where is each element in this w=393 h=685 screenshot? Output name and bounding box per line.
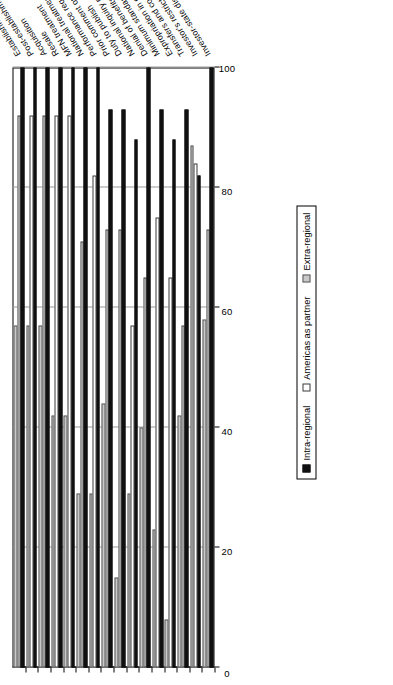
chart-canvas: 020406080100 EstablishmentPost-establish… bbox=[0, 0, 393, 685]
category-tick bbox=[63, 667, 64, 672]
bar-intra bbox=[121, 109, 125, 667]
bar-extra bbox=[63, 415, 67, 667]
bar-intra bbox=[197, 175, 201, 667]
bar-amer bbox=[42, 115, 46, 667]
axis-tick-label-text: 20 bbox=[221, 545, 232, 556]
bar-extra bbox=[152, 529, 156, 667]
bar-group bbox=[100, 67, 113, 667]
bar-amer bbox=[118, 229, 122, 667]
axis-tick bbox=[214, 546, 219, 547]
bar-group bbox=[138, 67, 151, 667]
axis-tick-label: 40 bbox=[221, 425, 232, 436]
legend-label: Intra-regional bbox=[301, 405, 311, 460]
axis-tick-label: 60 bbox=[221, 305, 232, 316]
bar-amer bbox=[92, 175, 96, 667]
category-tick bbox=[126, 667, 127, 672]
bar-extra bbox=[127, 493, 131, 667]
category-tick bbox=[164, 667, 165, 672]
category-tick bbox=[176, 667, 177, 672]
bar-group bbox=[25, 67, 38, 667]
axis-tick-label-text: 80 bbox=[221, 185, 232, 196]
bar-intra bbox=[108, 109, 112, 667]
bar-extra bbox=[101, 403, 105, 667]
bar-extra bbox=[177, 415, 181, 667]
bar-intra bbox=[172, 139, 176, 667]
bar-extra bbox=[164, 619, 168, 667]
bar-amer bbox=[80, 241, 84, 667]
bar-amer bbox=[181, 325, 185, 667]
bar-extra bbox=[51, 415, 55, 667]
bar-group bbox=[75, 67, 88, 667]
rotated-figure: 020406080100 EstablishmentPost-establish… bbox=[0, 0, 393, 685]
category-tick bbox=[138, 667, 139, 672]
bar-group bbox=[12, 67, 25, 667]
bar-intra bbox=[20, 67, 24, 667]
legend-label: Extra-regional bbox=[301, 212, 311, 270]
bar-extra bbox=[89, 493, 93, 667]
bar-group bbox=[113, 67, 126, 667]
bar-amer bbox=[155, 217, 159, 667]
axis-tick bbox=[214, 426, 219, 427]
bar-extra bbox=[114, 577, 118, 667]
legend-item[interactable]: Intra-regional bbox=[301, 405, 311, 472]
axis-tick bbox=[214, 306, 219, 307]
bar-group bbox=[63, 67, 76, 667]
bar-amer bbox=[130, 325, 134, 667]
bar-intra bbox=[96, 67, 100, 667]
axis-tick-label: 80 bbox=[221, 185, 232, 196]
bar-extra bbox=[190, 145, 194, 667]
axis-tick-label: 20 bbox=[221, 545, 232, 556]
axis-tick-label: 0 bbox=[221, 671, 232, 676]
legend-item[interactable]: Extra-regional bbox=[301, 212, 311, 282]
axis-tick-label-text: 0 bbox=[224, 668, 229, 679]
bar-intra bbox=[58, 67, 62, 667]
bar-intra bbox=[184, 109, 188, 667]
bar-intra bbox=[71, 67, 75, 667]
bar-amer bbox=[105, 229, 109, 667]
bar-intra bbox=[134, 139, 138, 667]
category-tick bbox=[100, 667, 101, 672]
bar-amer bbox=[206, 229, 210, 667]
bar-group bbox=[37, 67, 50, 667]
bar-group bbox=[164, 67, 177, 667]
bar-amer bbox=[193, 163, 197, 667]
category-tick bbox=[189, 667, 190, 672]
category-tick bbox=[75, 667, 76, 672]
category-tick bbox=[37, 667, 38, 672]
bar-group bbox=[126, 67, 139, 667]
bar-extra bbox=[38, 325, 42, 667]
bar-amer bbox=[168, 277, 172, 667]
axis-tick-label: 100 bbox=[221, 60, 232, 76]
bar-amer bbox=[143, 277, 147, 667]
legend-label: Americas as partner bbox=[301, 296, 311, 379]
bar-intra bbox=[33, 67, 37, 667]
bar-group bbox=[88, 67, 101, 667]
bar-group bbox=[176, 67, 189, 667]
chart-legend: Intra-regionalAmericas as partnerExtra-r… bbox=[296, 205, 316, 479]
legend-swatch-extra bbox=[302, 274, 310, 282]
category-tick bbox=[25, 667, 26, 672]
category-tick bbox=[113, 667, 114, 672]
axis-tick-label-text: 40 bbox=[221, 425, 232, 436]
bar-group bbox=[201, 67, 214, 667]
bar-amer bbox=[67, 115, 71, 667]
plot-area-wrapper: 020406080100 bbox=[12, 67, 214, 667]
bar-extra bbox=[202, 319, 206, 667]
bar-group bbox=[189, 67, 202, 667]
category-tick bbox=[88, 667, 89, 672]
bar-amer bbox=[54, 115, 58, 667]
category-tick bbox=[50, 667, 51, 672]
legend-item[interactable]: Americas as partner bbox=[301, 296, 311, 391]
axis-tick-label-text: 100 bbox=[218, 62, 234, 73]
axis-tick bbox=[214, 186, 219, 187]
category-tick bbox=[214, 667, 215, 672]
category-tick bbox=[201, 667, 202, 672]
bar-extra bbox=[26, 325, 30, 667]
axis-tick-label-text: 60 bbox=[221, 305, 232, 316]
legend-swatch-intra bbox=[302, 464, 310, 472]
bar-intra bbox=[209, 67, 213, 667]
bar-extra bbox=[13, 325, 17, 667]
bar-amer bbox=[17, 115, 21, 667]
bar-intra bbox=[146, 67, 150, 667]
bar-intra bbox=[45, 67, 49, 667]
